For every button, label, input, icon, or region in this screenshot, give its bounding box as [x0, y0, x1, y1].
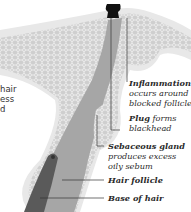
- label-inflammation: Inflammation occurs around blocked folli…: [129, 78, 191, 108]
- left-text-fragment-3: d: [0, 104, 5, 114]
- left-text-fragment-2: ess: [0, 94, 14, 104]
- left-text-fragment-1: hair: [0, 84, 16, 94]
- label-base-of-hair: Base of hair: [108, 193, 163, 203]
- label-hair-follicle: Hair follicle: [108, 175, 163, 185]
- label-plug: Plug forms blackhead: [129, 113, 176, 133]
- blackhead-plug: [106, 4, 121, 18]
- label-sebaceous-gland: Sebaceous gland produces excess oily seb…: [108, 141, 185, 171]
